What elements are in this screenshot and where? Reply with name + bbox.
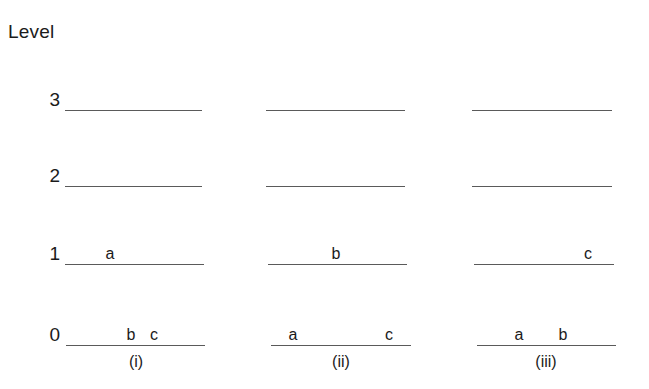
system-iii-level-2-line xyxy=(472,186,612,187)
system-iii-level-1-line xyxy=(474,264,614,265)
system-ii-level-1-line xyxy=(268,264,407,265)
system-i-level-1-occupant-a: a xyxy=(106,246,115,262)
system-i-level-1-line xyxy=(65,264,204,265)
system-iii-level-3-line xyxy=(472,110,612,111)
level-label-2: 2 xyxy=(34,166,60,185)
system-iii-level-0-occupant-a: a xyxy=(515,327,524,343)
system-i-level-0-occupant-c: c xyxy=(150,327,158,343)
energy-level-diagram: Level 3 2 1 0 a b c (i) b a c (ii) c a b… xyxy=(0,0,649,389)
system-caption-ii: (ii) xyxy=(332,354,350,370)
system-caption-i: (i) xyxy=(129,354,143,370)
system-ii-level-0-occupant-a: a xyxy=(289,327,298,343)
system-ii-level-0-occupant-c: c xyxy=(385,327,393,343)
system-ii-level-2-line xyxy=(266,186,405,187)
system-ii-level-3-line xyxy=(266,110,405,111)
system-i-level-2-line xyxy=(65,186,202,187)
level-label-0: 0 xyxy=(34,325,60,344)
axis-title-level: Level xyxy=(8,22,54,41)
system-i-level-0-occupant-b: b xyxy=(127,327,136,343)
level-label-1: 1 xyxy=(34,244,60,263)
system-i-level-3-line xyxy=(65,110,202,111)
system-ii-level-0-line xyxy=(271,345,411,346)
level-label-3: 3 xyxy=(34,90,60,109)
system-ii-level-1-occupant-b: b xyxy=(332,246,341,262)
system-iii-level-0-line xyxy=(477,345,616,346)
system-iii-level-1-occupant-c: c xyxy=(584,246,592,262)
system-iii-level-0-occupant-b: b xyxy=(559,327,568,343)
system-caption-iii: (iii) xyxy=(535,354,556,370)
system-i-level-0-line xyxy=(66,345,205,346)
